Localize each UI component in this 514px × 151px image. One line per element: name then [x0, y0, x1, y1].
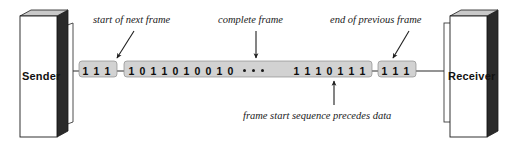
- bit-cell: 0: [225, 65, 236, 77]
- bit-cell: 0: [137, 65, 148, 77]
- bit-cell: 1: [291, 65, 302, 77]
- arrow-end-of-previous-frame: [393, 31, 409, 58]
- bit-cell: 1: [148, 65, 159, 77]
- bit-cell: 1: [80, 65, 91, 77]
- bit-cell: 1: [346, 65, 357, 77]
- ellipsis-dot: [243, 69, 246, 72]
- bit-cell: 0: [203, 65, 214, 77]
- callout-frame-start-note: frame start sequence precedes data: [243, 110, 391, 121]
- bits-start-of-next-frame: 111: [379, 62, 412, 79]
- bits-complete-frame-left: 1011010010: [126, 62, 236, 79]
- bit-cell: 1: [390, 65, 401, 77]
- bit-cell: 1: [357, 65, 368, 77]
- bits-end-of-previous-frame: 111: [80, 62, 113, 79]
- bit-cell: 0: [192, 65, 203, 77]
- bit-cell: 1: [181, 65, 192, 77]
- arrow-start-of-next-frame: [117, 31, 134, 58]
- receiver-label: Receiver: [448, 70, 489, 82]
- bit-cell: 1: [401, 65, 412, 77]
- diagram-canvas: Sender Receiver start of next frame comp…: [0, 0, 514, 151]
- ellipsis-dot: [252, 69, 255, 72]
- bits-ellipsis: [243, 62, 264, 79]
- bit-cell: 1: [91, 65, 102, 77]
- bit-cell: 1: [159, 65, 170, 77]
- bit-cell: 1: [302, 65, 313, 77]
- bit-cell: 1: [214, 65, 225, 77]
- bit-cell: 1: [102, 65, 113, 77]
- callout-end-of-previous-frame: end of previous frame: [330, 14, 421, 25]
- callout-start-of-next-frame: start of next frame: [93, 14, 170, 25]
- bit-cell: 1: [126, 65, 137, 77]
- bits-complete-frame-right: 1110111: [291, 62, 368, 79]
- bit-cell: 0: [324, 65, 335, 77]
- ellipsis-dot: [261, 69, 264, 72]
- bit-cell: 1: [335, 65, 346, 77]
- callout-complete-frame: complete frame: [218, 14, 283, 25]
- bit-cell: 0: [170, 65, 181, 77]
- bit-cell: 1: [379, 65, 390, 77]
- bit-cell: 1: [313, 65, 324, 77]
- sender-label: Sender: [22, 70, 57, 82]
